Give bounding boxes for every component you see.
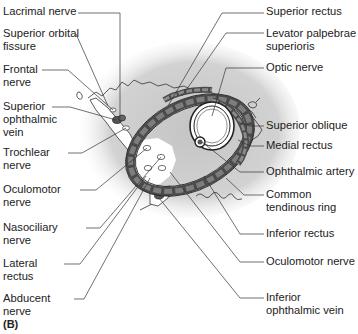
label-frontal-nerve: Frontal nerve [3,63,38,89]
label-superior-orbital-fissure: Superior orbital fissure [3,27,79,53]
label-ophthalmic-artery: Ophthalmic artery [266,165,354,178]
label-common-tendinous-ring: Common tendinous ring [266,188,336,214]
ophthalmic-artery [195,137,205,147]
label-lateral-rectus: Lateral rectus [3,257,37,283]
panel-label: (B) [3,318,18,330]
label-superior-rectus: Superior rectus [266,5,342,18]
label-levator-palpebrae-superioris: Levator palpebrae superioris [266,27,356,53]
orbit-apex-diagram: Lacrimal nerve Superior orbital fissure … [0,0,358,334]
label-nasociliary-nerve: Nasociliary nerve [3,221,58,247]
small-foramen-left [77,92,82,99]
label-lacrimal-nerve: Lacrimal nerve [3,5,76,18]
label-superior-ophthalmic-vein: Superior ophthalmic vein [3,100,57,139]
label-oculomotor-nerve-right: Oculomotor nerve [266,255,355,268]
label-optic-nerve: Optic nerve [266,61,323,74]
label-inferior-ophthalmic-vein: Inferior ophthalmic vein [266,291,344,317]
sup-ophthalmic-vein-shape-2 [119,115,126,121]
label-superior-oblique: Superior oblique [266,119,347,132]
label-oculomotor-nerve-left: Oculomotor nerve [3,183,61,209]
abducent-nerve-shape [144,165,152,170]
label-medial-rectus: Medial rectus [266,139,333,152]
label-trochlear-nerve: Trochlear nerve [3,146,50,172]
oculomotor-nerve-lower-shape [158,165,166,170]
label-inferior-rectus: Inferior rectus [266,227,334,240]
label-abducent-nerve: Abducent nerve [3,292,50,318]
